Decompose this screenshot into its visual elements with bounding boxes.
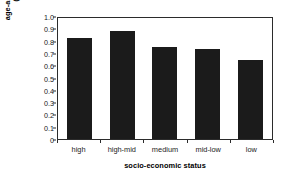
y-axis-tick-label: 0.2 bbox=[28, 111, 54, 120]
y-axis-tick-label: 0.9 bbox=[28, 25, 54, 34]
y-axis-tick-mark bbox=[53, 17, 56, 18]
y-axis-tick-label: 0.7 bbox=[28, 49, 54, 58]
y-axis-tick-mark bbox=[53, 140, 56, 141]
x-axis-tick-mark bbox=[143, 140, 144, 143]
y-axis-tick-label: 0.1 bbox=[28, 123, 54, 132]
y-axis-tick-mark bbox=[53, 127, 56, 128]
bar-slot bbox=[186, 18, 229, 139]
bar-slot bbox=[229, 18, 272, 139]
plot-area bbox=[57, 17, 273, 140]
x-axis-category-label: high bbox=[57, 145, 100, 157]
bar-series bbox=[58, 18, 272, 139]
y-axis-tick-mark bbox=[53, 90, 56, 91]
y-axis-tick-label: 1.0 bbox=[28, 13, 54, 22]
y-axis-tick-label: 0.4 bbox=[28, 86, 54, 95]
y-axis-tick-labels: 1.00.90.80.70.60.50.40.30.20.10 bbox=[26, 0, 54, 187]
y-axis-tick-label: 0.6 bbox=[28, 62, 54, 71]
x-axis-category-label: medium bbox=[143, 145, 186, 157]
x-axis-category-label: low bbox=[230, 145, 273, 157]
y-axis-tick-mark bbox=[53, 103, 56, 104]
bar bbox=[195, 49, 220, 139]
bar-chart-figure: age-adjusted incidence (per 100,000) 1.0… bbox=[0, 0, 288, 187]
x-axis-category-label: high-mid bbox=[100, 145, 143, 157]
x-axis-title: socio-economic status bbox=[57, 161, 273, 170]
bar bbox=[67, 38, 92, 139]
bar bbox=[152, 47, 177, 139]
x-axis-tick-mark bbox=[187, 140, 188, 143]
bar-slot bbox=[144, 18, 187, 139]
y-axis-tick-label: 0 bbox=[28, 136, 54, 145]
x-axis-tick-mark bbox=[230, 140, 231, 143]
y-axis-tick-mark bbox=[53, 66, 56, 67]
y-axis-tick-mark bbox=[53, 78, 56, 79]
y-axis-tick-mark bbox=[53, 41, 56, 42]
bar-slot bbox=[58, 18, 101, 139]
y-axis-title-line-2: (per 100,000) bbox=[12, 0, 20, 2]
y-axis-title: age-adjusted incidence (per 100,000) bbox=[1, 0, 23, 40]
x-axis-tick-mark bbox=[273, 140, 274, 143]
y-axis-tick-label: 0.8 bbox=[28, 37, 54, 46]
y-axis-tick-label: 0.3 bbox=[28, 99, 54, 108]
bar bbox=[110, 31, 135, 139]
y-axis-tick-label: 0.5 bbox=[28, 74, 54, 83]
y-axis-tick-mark bbox=[53, 29, 56, 30]
y-axis-title-line-1: age-adjusted incidence bbox=[4, 0, 12, 20]
y-axis-tick-mark bbox=[53, 115, 56, 116]
x-axis-category-label: mid-low bbox=[187, 145, 230, 157]
x-axis-tick-mark bbox=[100, 140, 101, 143]
x-axis-tick-mark bbox=[57, 140, 58, 143]
y-axis-tick-mark bbox=[53, 53, 56, 54]
bar-slot bbox=[101, 18, 144, 139]
x-axis-category-labels: highhigh-midmediummid-lowlow bbox=[57, 145, 273, 157]
bar bbox=[238, 60, 263, 139]
